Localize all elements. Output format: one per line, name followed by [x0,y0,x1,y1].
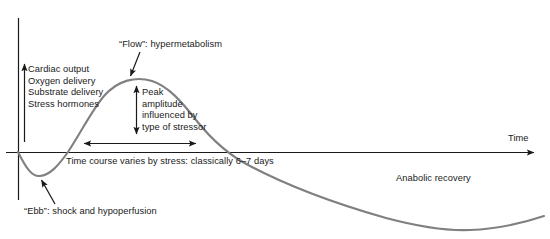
ebb-flow-metabolic-response-diagram: Cardiac output Oxygen delivery Substrate… [0,0,550,239]
flow-pointer-arrow [131,52,141,76]
anabolic-recovery-label: Anabolic recovery [396,173,471,185]
ebb-pointer-arrow [42,180,56,204]
x-axis-time-label: Time [508,133,529,145]
y-axis-series-labels: Cardiac output Oxygen delivery Substrate… [28,64,103,110]
ebb-phase-label: “Ebb”: shock and hypoperfusion [24,206,157,218]
peak-amplitude-label: Peak amplitude influenced by type of str… [142,87,206,133]
time-course-label: Time course varies by stress: classicall… [66,156,274,168]
flow-phase-label: “Flow”: hypermetabolism [119,39,222,51]
diagram-canvas [0,0,550,239]
